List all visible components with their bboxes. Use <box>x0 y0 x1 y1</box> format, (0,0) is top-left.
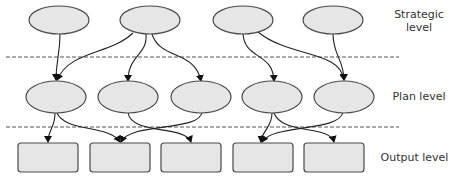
strategic-level-label: Strategic level <box>388 8 450 34</box>
output-node-4 <box>233 143 293 172</box>
plan-node-3 <box>171 81 231 113</box>
plan-node-2 <box>98 81 158 113</box>
output-node-5 <box>304 143 364 172</box>
output-node-3 <box>161 143 221 172</box>
strategic-node-4 <box>303 6 363 34</box>
strategic-node-2 <box>120 6 180 34</box>
plan-level-label: Plan level <box>388 90 450 103</box>
plan-node-4 <box>242 81 302 113</box>
output-level-label: Output level <box>378 151 451 164</box>
hierarchy-diagram <box>0 0 451 176</box>
strategic-label-line1: Strategic <box>388 8 450 21</box>
output-node-2 <box>90 143 150 172</box>
strategic-node-3 <box>213 6 273 34</box>
plan-level-nodes <box>26 81 374 113</box>
plan-node-5 <box>314 81 374 113</box>
strategic-level-nodes <box>29 6 363 34</box>
output-level-nodes <box>18 143 364 172</box>
strategic-node-1 <box>29 6 89 34</box>
strategic-label-line2: level <box>388 21 450 34</box>
output-node-1 <box>18 143 78 172</box>
plan-node-1 <box>26 81 86 113</box>
